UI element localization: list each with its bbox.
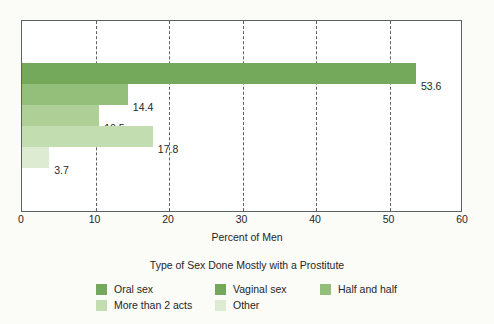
legend-label: Oral sex <box>114 284 153 295</box>
legend-label: Other <box>233 300 259 311</box>
bar <box>22 63 416 84</box>
x-tick-label: 30 <box>236 213 248 225</box>
x-tick-label: 60 <box>456 213 468 225</box>
legend-swatch-icon <box>320 284 331 295</box>
x-tick-label: 20 <box>162 213 174 225</box>
bar <box>22 84 128 105</box>
bar-value-label: 53.6 <box>421 81 441 92</box>
legend-title: Type of Sex Done Mostly with a Prostitut… <box>0 259 494 271</box>
legend-swatch-icon <box>96 300 107 311</box>
bar-value-label: 17.8 <box>158 144 178 155</box>
x-tick-label: 0 <box>18 213 24 225</box>
legend-item[interactable]: More than 2 acts <box>96 297 192 313</box>
legend-item[interactable]: Vaginal sex <box>215 281 287 297</box>
x-axis-title: Percent of Men <box>0 231 494 243</box>
legend-label: Vaginal sex <box>233 284 287 295</box>
x-tick-label: 10 <box>89 213 101 225</box>
legend-item[interactable]: Half and half <box>320 281 397 297</box>
bar-value-label: 3.7 <box>54 165 69 176</box>
legend-item[interactable]: Other <box>215 297 259 313</box>
legend-label: Half and half <box>338 284 397 295</box>
bar <box>22 126 153 147</box>
legend-row: Oral sexVaginal sexHalf and half <box>96 281 406 297</box>
bar <box>22 147 49 168</box>
legend-label: More than 2 acts <box>114 300 192 311</box>
legend-swatch-icon <box>96 284 107 295</box>
legend-row: More than 2 actsOther <box>96 297 406 313</box>
chart-plot-area: 53.614.410.517.83.7 <box>21 20 462 212</box>
legend: Oral sexVaginal sexHalf and halfMore tha… <box>96 281 406 313</box>
x-axis-ticks: 0102030405060 <box>21 213 462 229</box>
bar-value-label: 14.4 <box>133 102 153 113</box>
legend-swatch-icon <box>215 284 226 295</box>
x-tick-label: 40 <box>309 213 321 225</box>
x-tick-label: 50 <box>383 213 395 225</box>
bars-layer: 53.614.410.517.83.7 <box>22 21 461 211</box>
legend-item[interactable]: Oral sex <box>96 281 153 297</box>
legend-swatch-icon <box>215 300 226 311</box>
bar <box>22 105 99 126</box>
